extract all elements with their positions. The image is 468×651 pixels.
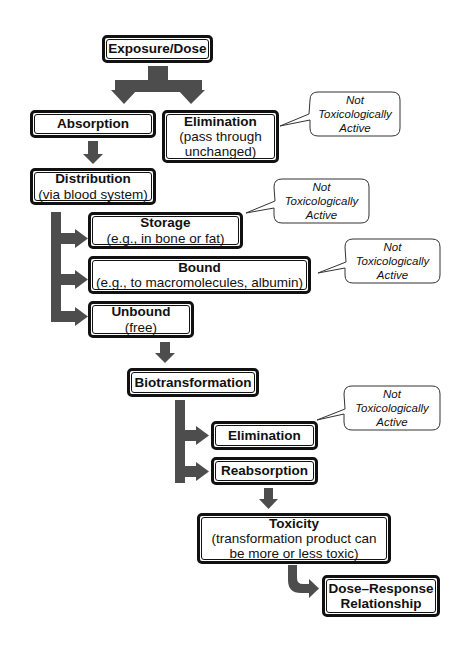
node-title: Exposure/Dose: [108, 41, 206, 56]
down-arrow-icon: [155, 342, 175, 363]
node-title: Elimination: [228, 428, 301, 443]
node-subtitle: unchanged): [185, 144, 256, 159]
callout-not-active: Not Toxicologically Active: [310, 92, 400, 136]
callout-line: Not: [383, 387, 401, 401]
node-bound: Bound (e.g., to macromolecules, albumin): [88, 256, 311, 294]
branch-arrow-icon: [51, 212, 88, 326]
node-subtitle: (free): [125, 320, 157, 335]
callout-line: Not: [384, 240, 402, 254]
callout-not-active: Not Toxicologically Active: [274, 179, 369, 223]
callout-line: Toxicologically: [356, 254, 430, 268]
node-subtitle: (transformation product can: [211, 531, 376, 546]
callout-not-active: Not Toxicologically Active: [344, 386, 440, 430]
callout-line: Active: [377, 268, 408, 282]
callout-line: Active: [339, 121, 370, 135]
node-toxicity: Toxicity (transformation product can be …: [197, 513, 391, 564]
curved-arrow-icon: [288, 565, 319, 598]
node-subtitle: (pass through: [179, 129, 262, 144]
split-arrow-icon: [111, 66, 205, 104]
callout-line: Toxicologically: [318, 107, 392, 121]
node-dose-response: Dose–Response Relationship: [322, 575, 440, 617]
node-unbound: Unbound (free): [88, 301, 194, 338]
branch-arrow-icon: [175, 400, 209, 483]
callout-line: Active: [376, 415, 407, 429]
node-subtitle: (e.g., in bone or fat): [107, 231, 225, 246]
node-title: Elimination: [184, 114, 257, 129]
node-title: Biotransformation: [134, 375, 251, 390]
node-title: Unbound: [111, 304, 170, 319]
node-exposure-dose: Exposure/Dose: [102, 35, 213, 63]
callout-line: Toxicologically: [285, 194, 359, 208]
node-reabsorption: Reabsorption: [211, 457, 318, 485]
node-distribution: Distribution (via blood system): [30, 168, 156, 205]
node-title: Distribution: [55, 171, 131, 186]
callout-line: Not: [346, 93, 364, 107]
node-subtitle: (via blood system): [38, 187, 148, 202]
node-subtitle: be more or less toxic): [229, 546, 358, 561]
toxicokinetics-flowchart: Exposure/Dose Absorption Elimination (pa…: [0, 0, 468, 651]
callout-line: Toxicologically: [355, 401, 429, 415]
node-title: Bound: [178, 260, 221, 275]
down-arrow-icon: [259, 488, 278, 509]
node-title-line2: Relationship: [340, 596, 421, 611]
node-storage: Storage (e.g., in bone or fat): [88, 212, 243, 249]
node-title: Reabsorption: [221, 463, 308, 478]
callout-line: Not: [313, 180, 331, 194]
node-biotransformation: Biotransformation: [127, 368, 259, 397]
down-arrow-icon: [83, 141, 103, 164]
node-title: Storage: [140, 215, 190, 230]
node-elimination: Elimination: [211, 421, 318, 450]
node-subtitle: (e.g., to macromolecules, albumin): [96, 275, 303, 290]
node-title: Dose–Response: [328, 581, 433, 596]
node-title: Toxicity: [269, 516, 319, 531]
node-elimination-unchanged: Elimination (pass through unchanged): [162, 110, 279, 163]
node-title: Absorption: [57, 116, 129, 131]
callout-line: Active: [306, 208, 337, 222]
callout-not-active: Not Toxicologically Active: [345, 239, 440, 283]
node-absorption: Absorption: [30, 110, 156, 138]
